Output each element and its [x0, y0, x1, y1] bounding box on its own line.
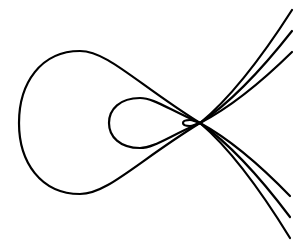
middle-curve-loop — [109, 98, 200, 148]
outer-curve-branch-down — [200, 123, 290, 238]
middle-curve-branch-down — [200, 123, 290, 217]
curve-family-diagram — [0, 0, 308, 251]
curves-group — [19, 10, 292, 238]
